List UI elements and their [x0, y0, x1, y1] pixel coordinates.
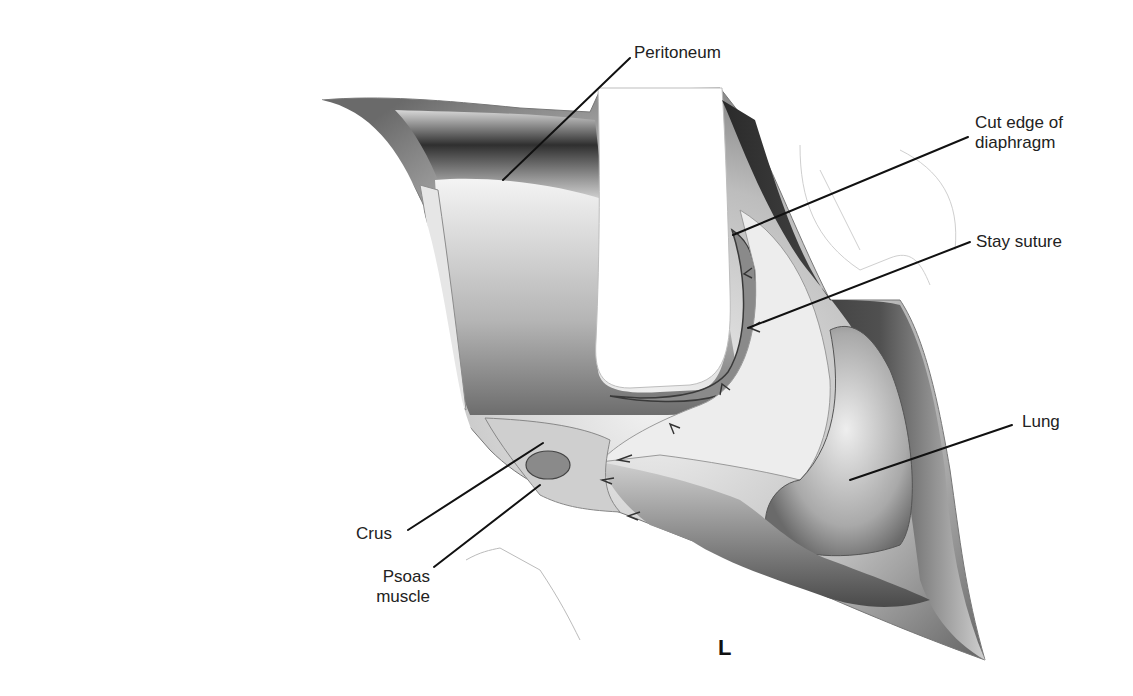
psoas-muscle — [526, 451, 570, 479]
label-crus: Crus — [356, 524, 392, 544]
retractor-top — [596, 88, 731, 388]
illustration-drawing — [0, 0, 1133, 696]
view-label: L — [718, 635, 731, 661]
anatomical-illustration: Peritoneum Cut edge of diaphragm Stay su… — [0, 0, 1133, 696]
label-peritoneum: Peritoneum — [634, 43, 721, 63]
label-cut-edge-of-diaphragm: Cut edge of diaphragm — [975, 113, 1063, 153]
label-lung: Lung — [1022, 412, 1060, 432]
label-stay-suture: Stay suture — [976, 232, 1062, 252]
label-psoas-muscle: Psoas muscle — [364, 567, 430, 607]
sketch-lines — [800, 145, 956, 285]
